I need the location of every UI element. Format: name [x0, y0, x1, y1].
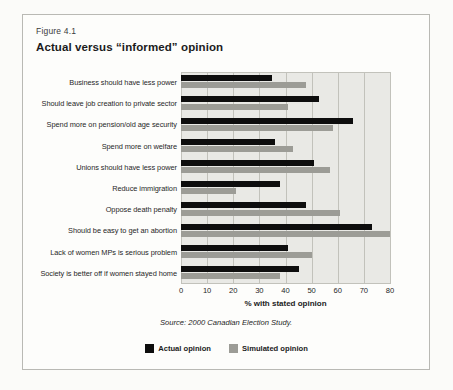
value-axis-ticks: 01020304050607080 [181, 286, 390, 298]
chart-bar-group [181, 199, 390, 220]
category-label: Reduce immigration [30, 184, 177, 193]
bar-actual-opinion [181, 224, 372, 230]
bar-simulated-opinion [181, 231, 390, 237]
bar-simulated-opinion [181, 146, 293, 152]
figure-title: Actual versus “informed” opinion [36, 41, 223, 53]
figure-number: Figure 4.1 [36, 26, 76, 36]
bar-actual-opinion [181, 139, 275, 145]
x-axis-tick-label: 20 [229, 286, 237, 295]
category-label: Oppose death penalty [30, 205, 177, 214]
bar-actual-opinion [181, 96, 319, 102]
chart-bar-group [181, 220, 390, 241]
chart-bar-group [181, 157, 390, 178]
x-axis-tick-label: 50 [307, 286, 315, 295]
category-label: Should be easy to get an abortion [30, 226, 177, 235]
legend-label: Actual opinion [158, 344, 211, 353]
bar-simulated-opinion [181, 252, 312, 258]
figure-source: Source: 2000 Canadian Election Study. [22, 318, 430, 327]
x-axis-tick-label: 0 [179, 286, 183, 295]
bar-actual-opinion [181, 181, 280, 187]
bar-actual-opinion [181, 160, 314, 166]
bar-actual-opinion [181, 245, 288, 251]
bar-simulated-opinion [181, 82, 306, 88]
chart-bar-group [181, 242, 390, 263]
bar-simulated-opinion [181, 273, 280, 279]
chart-plot-area [181, 72, 390, 284]
bar-simulated-opinion [181, 188, 236, 194]
bar-simulated-opinion [181, 104, 288, 110]
category-label: Unions should have less power [30, 163, 177, 172]
x-axis-title: % with stated opinion [181, 299, 390, 308]
category-label: Spend more on welfare [30, 142, 177, 151]
source-text: Source: 2000 Canadian Election Study. [160, 318, 292, 327]
chart-bar-group [181, 263, 390, 284]
x-axis-tick-label: 30 [255, 286, 263, 295]
chart-bar-group [181, 178, 390, 199]
gridline [390, 72, 391, 284]
legend-item: Actual opinion [145, 344, 211, 353]
chart-bar-group [181, 93, 390, 114]
bar-simulated-opinion [181, 125, 333, 131]
chart-bars [181, 72, 390, 284]
bar-actual-opinion [181, 75, 272, 81]
chart-bar-group [181, 136, 390, 157]
x-axis-tick-label: 80 [386, 286, 394, 295]
chart-legend: Actual opinionSimulated opinion [0, 344, 453, 353]
x-axis-tick-label: 10 [203, 286, 211, 295]
category-label: Lack of women MPs is serious problem [30, 248, 177, 257]
bar-simulated-opinion [181, 167, 330, 173]
x-axis-tick-label: 70 [360, 286, 368, 295]
legend-label: Simulated opinion [242, 344, 308, 353]
category-label: Business should have less power [30, 78, 177, 87]
chart-bar-group [181, 72, 390, 93]
category-axis-labels: Business should have less powerShould le… [30, 72, 177, 284]
category-label: Should leave job creation to private sec… [30, 99, 177, 108]
bar-actual-opinion [181, 202, 306, 208]
x-axis-tick-label: 60 [334, 286, 342, 295]
legend-swatch [145, 344, 154, 353]
figure-page: Figure 4.1 Actual versus “informed” opin… [0, 0, 453, 390]
bar-actual-opinion [181, 118, 353, 124]
legend-item: Simulated opinion [229, 344, 308, 353]
bar-actual-opinion [181, 266, 299, 272]
x-axis-tick-label: 40 [281, 286, 289, 295]
category-label: Spend more on pension/old age security [30, 120, 177, 129]
bar-simulated-opinion [181, 210, 340, 216]
chart-bar-group [181, 114, 390, 135]
category-label: Society is better off if women stayed ho… [30, 269, 177, 278]
legend-swatch [229, 344, 238, 353]
